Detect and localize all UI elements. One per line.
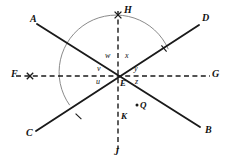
angle-label-v: v (97, 65, 101, 73)
label-point-c: C (26, 128, 33, 138)
label-point-q: Q (140, 101, 147, 110)
angle-label-y: y (134, 65, 138, 73)
label-point-d: D (202, 13, 209, 23)
angle-arc (59, 15, 168, 105)
label-point-k: K (121, 112, 127, 121)
label-point-h: H (124, 5, 132, 15)
angle-label-z: z (135, 78, 138, 86)
geometry-figure: A B C D F G H J E K Q w x v y u z (0, 0, 226, 166)
label-point-f: F (11, 69, 18, 79)
label-point-g: G (212, 69, 219, 79)
angle-label-x: x (125, 52, 129, 60)
angle-label-w: w (105, 52, 110, 60)
tick-arc-crossing-cd (76, 114, 82, 120)
geometry-canvas (0, 0, 226, 166)
label-point-e: E (120, 79, 126, 88)
angle-label-u: u (96, 78, 100, 86)
label-point-b: B (205, 125, 212, 135)
label-point-j: J (114, 147, 119, 157)
label-point-a: A (30, 14, 37, 24)
point-q-dot (136, 104, 139, 107)
